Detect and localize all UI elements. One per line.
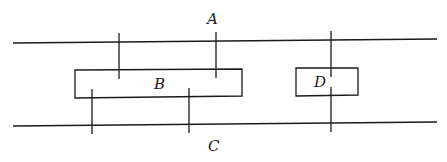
- label-c: C: [208, 137, 220, 155]
- diagram: A B C D: [0, 0, 447, 162]
- label-b: B: [153, 75, 165, 93]
- line-c: [13, 122, 437, 126]
- box-d: [296, 68, 358, 96]
- label-d: D: [313, 73, 326, 91]
- line-a: [13, 39, 437, 43]
- label-a: A: [205, 10, 218, 28]
